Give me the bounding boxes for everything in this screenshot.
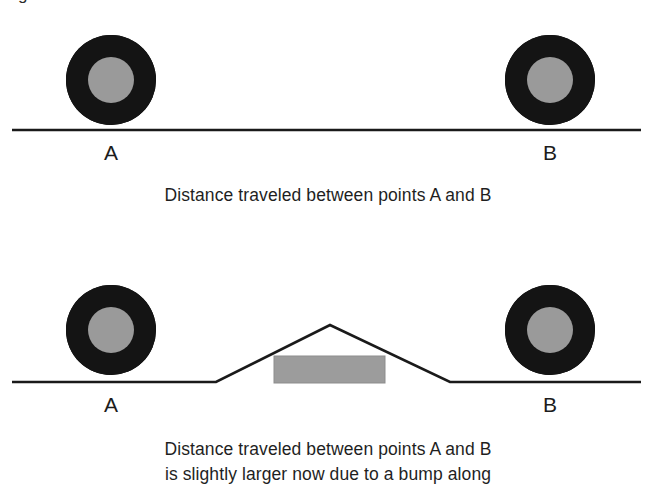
bump-block (274, 356, 385, 383)
wheel-b (505, 35, 595, 125)
point-label-b: B (530, 142, 570, 163)
caption-bump: Distance traveled between points A and B… (0, 437, 656, 486)
figure-page: g A B Distance traveled between points A… (0, 0, 656, 486)
caption-line: Distance traveled between points A and B (0, 437, 656, 462)
point-label-a: A (91, 142, 131, 163)
flat-ground-panel: A B Distance traveled between points A a… (0, 0, 656, 215)
point-label-b: B (530, 394, 570, 415)
point-label-a: A (91, 394, 131, 415)
wheel-b (505, 285, 595, 375)
wheel-hub (527, 57, 573, 103)
wheel-a (66, 285, 156, 375)
wheel-a (66, 35, 156, 125)
wheel-hub (88, 307, 134, 353)
wheel-hub (527, 307, 573, 353)
caption-flat: Distance traveled between points A and B (0, 183, 656, 208)
bump-ground-panel: A B Distance traveled between points A a… (0, 250, 656, 486)
caption-line: Distance traveled between points A and B (0, 183, 656, 208)
caption-line: is slightly larger now due to a bump alo… (0, 462, 656, 486)
wheel-hub (88, 57, 134, 103)
